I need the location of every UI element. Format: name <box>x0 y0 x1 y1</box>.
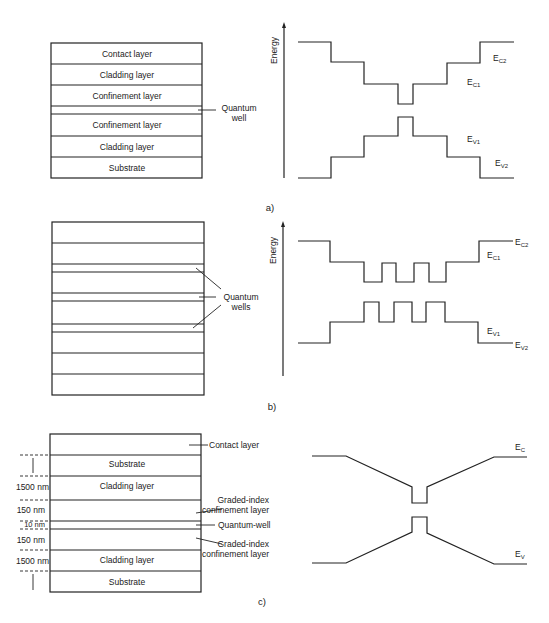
panel-c-band-labels: EC EV <box>515 442 526 560</box>
svg-text:EV2: EV2 <box>495 158 509 169</box>
quantum-well-pointer-1 <box>196 268 221 289</box>
grin-bottom-callout-line2: confinement layer <box>202 549 269 559</box>
thickness-label: 1500 nm <box>16 482 49 492</box>
svg-text:EV1: EV1 <box>487 326 501 337</box>
svg-text:EC1: EC1 <box>487 250 501 261</box>
svg-text:EC2: EC2 <box>493 53 507 64</box>
svg-text:EC: EC <box>515 442 526 453</box>
grin-top-callout-line2: confinement layer <box>202 505 269 515</box>
panel-c-band-diagram <box>312 456 527 564</box>
energy-axis-arrowhead-icon <box>282 22 286 28</box>
thickness-labels: 1500 nm 150 nm 10 nm 150 nm 1500 nm <box>16 482 49 566</box>
panel-a-layer-stack <box>51 43 216 178</box>
layer-label: Confinement layer <box>93 91 162 101</box>
panel-a-label: a) <box>266 202 274 213</box>
ev1-subscript: V1 <box>493 331 501 337</box>
thickness-label: 150 nm <box>17 505 45 515</box>
panel-b-label: b) <box>268 401 276 412</box>
grin-top-callout-line1: Graded-index <box>217 495 269 505</box>
quantum-well-callout: Quantum-well <box>218 520 271 530</box>
contact-layer-callout: Contact layer <box>209 440 259 450</box>
panel-a-layer-labels: Contact layer Cladding layer Confinement… <box>93 49 162 173</box>
thickness-label: 10 nm <box>24 520 45 529</box>
quantum-wells-callout-line1: Quantum <box>224 292 259 302</box>
ev2-subscript: V2 <box>501 163 509 169</box>
svg-text:EV2: EV2 <box>515 340 529 351</box>
panel-a-band-diagram <box>282 22 514 178</box>
layer-label: Contact layer <box>102 49 152 59</box>
quantum-well-callout-line2: well <box>231 113 247 123</box>
ec2-subscript: C2 <box>499 58 507 64</box>
ec-subscript: C <box>521 447 526 453</box>
grin-bottom-callout-line1: Graded-index <box>217 539 269 549</box>
panel-b-band-labels: EC2 EC1 EV1 EV2 <box>487 237 529 351</box>
panel-c-label: c) <box>258 596 266 607</box>
ev-subscript: V <box>521 554 525 560</box>
ec2-subscript: C2 <box>521 242 529 248</box>
panel-c-layer-labels: Substrate Cladding layer Cladding layer … <box>100 459 155 587</box>
layer-label: Substrate <box>109 459 146 469</box>
layer-label: Cladding layer <box>100 70 155 80</box>
ec1-subscript: C1 <box>493 255 501 261</box>
thickness-label: 150 nm <box>17 535 45 545</box>
svg-text:EC2: EC2 <box>515 237 529 248</box>
svg-text:EV: EV <box>515 549 525 560</box>
svg-text:EV1: EV1 <box>467 134 481 145</box>
svg-text:EC1: EC1 <box>467 77 481 88</box>
layer-label: Cladding layer <box>100 555 155 565</box>
energy-axis-label: Energy <box>269 36 279 64</box>
layer-label: Cladding layer <box>100 481 155 491</box>
panel-c-layer-stack <box>20 434 222 592</box>
layer-label: Confinement layer <box>93 120 162 130</box>
layer-label: Substrate <box>109 577 146 587</box>
panel-b-layer-stack <box>52 222 221 395</box>
layer-label: Substrate <box>109 163 146 173</box>
quantum-well-pointer-3 <box>193 305 221 328</box>
quantum-wells-callout-line2: wells <box>231 302 251 312</box>
energy-axis-arrowhead-icon <box>281 221 285 227</box>
panel-a-band-labels: EC2 EC1 EV1 EV2 <box>467 53 509 169</box>
panel-c-callouts: Contact layer Graded-index confinement l… <box>202 440 271 559</box>
layer-label: Cladding layer <box>100 142 155 152</box>
ev2-subscript: V2 <box>521 345 529 351</box>
ec1-subscript: C1 <box>473 82 481 88</box>
energy-axis-label: Energy <box>268 236 278 264</box>
panel-b-band-diagram <box>281 221 513 376</box>
figure-canvas: Contact layer Cladding layer Confinement… <box>0 0 549 623</box>
thickness-label: 1500 nm <box>16 556 49 566</box>
quantum-well-callout-line1: Quantum <box>222 103 257 113</box>
ev1-subscript: V1 <box>473 139 481 145</box>
